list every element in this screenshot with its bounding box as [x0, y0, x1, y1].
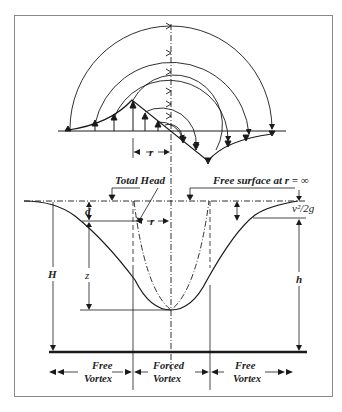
water-surface-profile [24, 201, 298, 310]
velocity-head-label: v²/2g [292, 202, 315, 214]
flow-direction-arrows [166, 23, 171, 119]
r-label-mid: r [150, 215, 155, 227]
z-label: z [84, 269, 90, 281]
free-surface-label: Free surface at r = ∞ [212, 174, 309, 186]
zone-center-label-1: Forced [152, 360, 185, 371]
zone-right-label-1: Free [234, 360, 256, 371]
figure-frame [15, 16, 333, 397]
zone-left-label-1: Free [91, 360, 113, 371]
total-head-label: Total Head [115, 174, 166, 186]
zone-right-label-2: Vortex [233, 373, 261, 384]
d-label: d [85, 205, 91, 217]
forced-vortex-paraboloid [134, 201, 209, 310]
r-label-top: r [149, 146, 154, 158]
h-label: h [296, 273, 302, 285]
zone-left-label-2: Vortex [84, 373, 112, 384]
vortex-diagram: r Total Head Free surface at r = ∞ r d z… [0, 0, 342, 412]
H-label: H [47, 268, 57, 280]
zone-center-label-2: Vortex [153, 373, 181, 384]
velocity-arrows-left [65, 101, 161, 131]
